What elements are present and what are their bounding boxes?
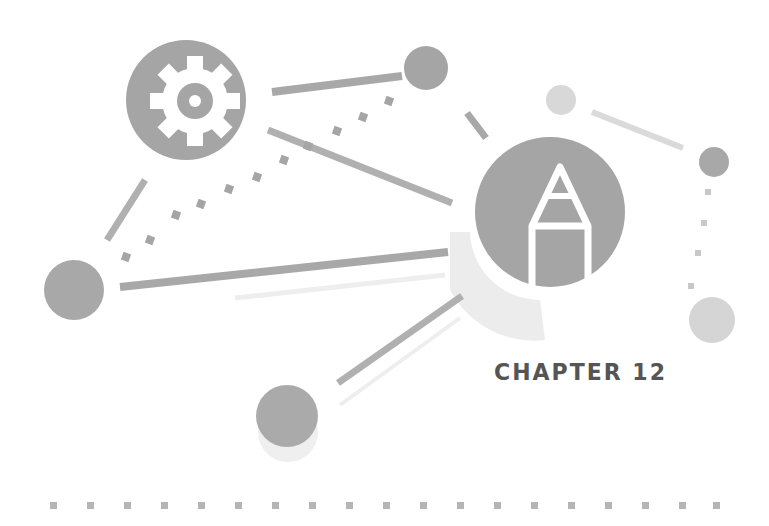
network-illustration (0, 0, 769, 526)
chapter-heading: CHAPTER 12 (494, 359, 667, 385)
pencil-icon (475, 137, 625, 288)
footer-dotted-rule (50, 502, 720, 509)
dotted-connector-right (688, 189, 711, 289)
gear-icon (126, 40, 246, 160)
